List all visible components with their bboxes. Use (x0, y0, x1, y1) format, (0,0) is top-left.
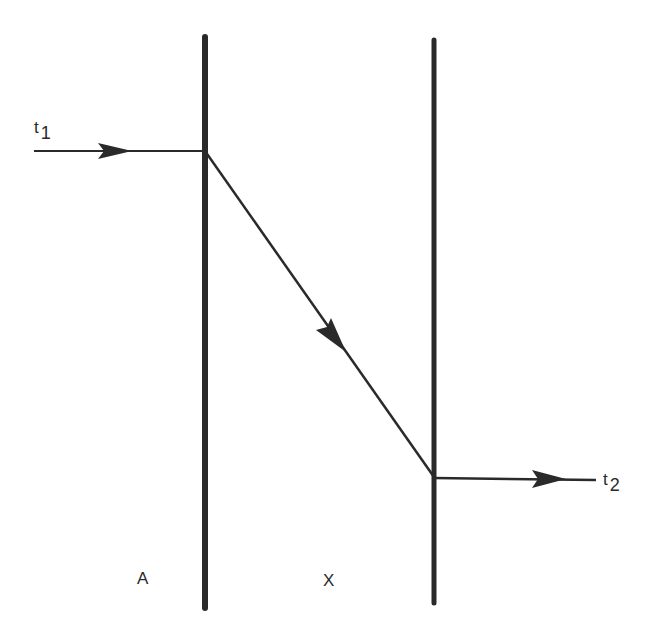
label-t1-base: t (34, 118, 39, 137)
label-t2: t2 (603, 470, 620, 488)
label-t1-sub: 1 (41, 123, 51, 143)
region-label-a: A (137, 570, 148, 587)
label-t1: t1 (34, 118, 51, 136)
ray-diagram (0, 0, 654, 642)
label-t2-sub: 2 (610, 475, 620, 495)
outgoing-ray (434, 478, 596, 480)
crossing-arrowhead-icon (316, 318, 346, 352)
region-label-x: X (323, 572, 334, 589)
label-t2-base: t (603, 470, 608, 489)
crossing-ray (205, 151, 434, 477)
